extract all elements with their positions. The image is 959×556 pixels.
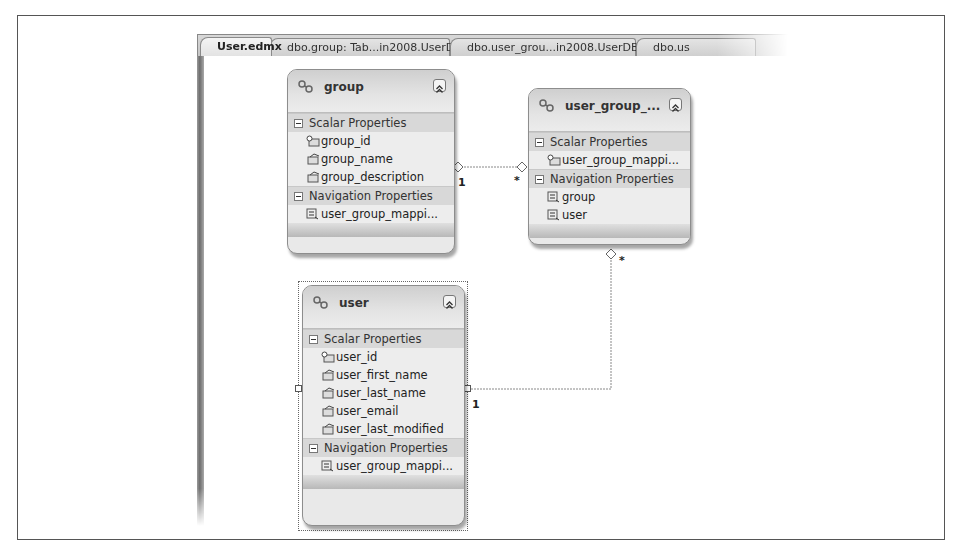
tab-dbo-user[interactable]: dbo.us (636, 38, 756, 56)
section-label: Navigation Properties (324, 441, 448, 455)
property-row[interactable]: user_group_mappi... (529, 151, 690, 169)
section-label: Navigation Properties (309, 189, 433, 203)
scalar-property-icon (321, 423, 335, 435)
association-end-diamond (517, 162, 527, 172)
scalar-property-icon (306, 171, 320, 183)
association-line-user[interactable] (468, 255, 611, 389)
navigation-property-icon (547, 191, 561, 203)
resize-handle-right[interactable] (464, 385, 471, 392)
entity-header[interactable]: user_group_... (529, 89, 690, 132)
collapse-button[interactable] (433, 79, 446, 92)
entity-title: user_group_... (565, 99, 660, 113)
collapse-minus-icon[interactable] (309, 335, 318, 344)
collapse-minus-icon[interactable] (309, 444, 318, 453)
collapse-minus-icon[interactable] (294, 119, 303, 128)
property-name: user_group_mappi... (321, 207, 438, 221)
key-property-icon (306, 135, 320, 147)
property-row[interactable]: user_first_name (303, 366, 464, 384)
multiplicity-label: * (619, 254, 625, 267)
tab-label: dbo.us (653, 41, 690, 54)
collapse-button[interactable] (443, 295, 456, 308)
property-row[interactable]: group_description (288, 168, 454, 186)
property-row[interactable]: group_id (288, 132, 454, 150)
scalar-properties-header[interactable]: Scalar Properties (303, 329, 464, 348)
navigation-property-icon (321, 460, 335, 472)
collapse-button[interactable] (669, 98, 682, 111)
section-label: Scalar Properties (550, 135, 647, 149)
property-name: user_first_name (336, 368, 428, 382)
resize-handle-left[interactable] (295, 385, 302, 392)
tab-user-edmx[interactable]: User.edmx (200, 37, 272, 57)
collapse-minus-icon[interactable] (294, 192, 303, 201)
entity-footer (529, 224, 690, 238)
multiplicity-label: 1 (458, 176, 466, 189)
navigation-property-row[interactable]: user (529, 206, 690, 224)
property-row[interactable]: user_id (303, 348, 464, 366)
property-name: user_group_mappi... (562, 153, 679, 167)
multiplicity-label: 1 (472, 398, 480, 411)
key-property-icon (321, 351, 335, 363)
property-name: user (562, 208, 587, 222)
navigation-properties-header[interactable]: Navigation Properties (288, 186, 454, 205)
property-name: group (562, 190, 595, 204)
property-row[interactable]: user_last_modified (303, 420, 464, 438)
tab-label: User.edmx (217, 40, 282, 53)
scalar-properties-header[interactable]: Scalar Properties (529, 132, 690, 151)
entity-footer (303, 475, 464, 489)
scalar-property-icon (321, 387, 335, 399)
scalar-property-icon (306, 153, 320, 165)
section-label: Navigation Properties (550, 172, 674, 186)
tab-label: dbo.group: Tab...in2008.UserDB) (287, 41, 466, 54)
section-label: Scalar Properties (309, 116, 406, 130)
multiplicity-label: * (514, 174, 520, 187)
property-name: user_id (336, 350, 377, 364)
entity-footer (288, 223, 454, 237)
entity-user-group-mapping[interactable]: user_group_... Scalar Properties user_gr… (528, 88, 691, 245)
navigation-property-row[interactable]: user_group_mappi... (303, 457, 464, 475)
property-name: group_description (321, 170, 424, 184)
scalar-properties-header[interactable]: Scalar Properties (288, 113, 454, 132)
chevron-up-double-icon (434, 84, 445, 95)
entity-type-icon (298, 80, 314, 94)
designer-canvas[interactable]: 1 * * 1 group Scalar Properties group_id… (204, 56, 787, 529)
entity-title: group (324, 80, 364, 94)
property-row[interactable]: user_email (303, 402, 464, 420)
navigation-properties-header[interactable]: Navigation Properties (529, 169, 690, 188)
property-name: user_last_name (336, 386, 426, 400)
entity-header[interactable]: group (288, 70, 454, 113)
navigation-property-row[interactable]: group (529, 188, 690, 206)
entity-type-icon (539, 99, 555, 113)
collapse-minus-icon[interactable] (535, 175, 544, 184)
entity-group[interactable]: group Scalar Properties group_id group_n… (287, 69, 455, 254)
navigation-property-row[interactable]: user_group_mappi... (288, 205, 454, 223)
association-end-diamond (606, 249, 616, 259)
chevron-up-double-icon (444, 300, 455, 311)
entity-title: user (339, 296, 369, 310)
property-name: user_group_mappi... (336, 459, 453, 473)
section-label: Scalar Properties (324, 332, 421, 346)
window-left-border (197, 56, 204, 526)
chevron-up-double-icon (670, 103, 681, 114)
document-tab-strip: User.edmx dbo.group: Tab...in2008.UserDB… (197, 34, 788, 57)
tab-dbo-group[interactable]: dbo.group: Tab...in2008.UserDB) (270, 38, 450, 56)
property-name: group_id (321, 134, 371, 148)
scalar-property-icon (321, 369, 335, 381)
entity-header[interactable]: user (303, 286, 464, 329)
entity-user[interactable]: user Scalar Properties user_id user_firs… (302, 285, 465, 526)
tab-dbo-user-group[interactable]: dbo.user_grou...in2008.UserDB) (450, 38, 636, 56)
property-row[interactable]: user_last_name (303, 384, 464, 402)
navigation-property-icon (306, 208, 320, 220)
navigation-properties-header[interactable]: Navigation Properties (303, 438, 464, 457)
collapse-minus-icon[interactable] (535, 138, 544, 147)
scalar-property-icon (321, 405, 335, 417)
navigation-property-icon (547, 209, 561, 221)
entity-type-icon (313, 296, 329, 310)
key-property-icon (547, 154, 561, 166)
property-name: group_name (321, 152, 393, 166)
property-row[interactable]: group_name (288, 150, 454, 168)
edmx-designer-window: User.edmx dbo.group: Tab...in2008.UserDB… (197, 34, 787, 529)
property-name: user_email (336, 404, 399, 418)
property-name: user_last_modified (336, 422, 444, 436)
tab-label: dbo.user_grou...in2008.UserDB) (467, 41, 643, 54)
